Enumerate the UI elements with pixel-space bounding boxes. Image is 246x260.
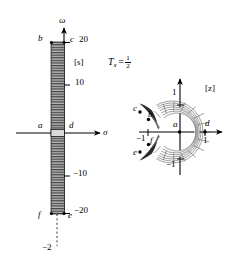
z-tick-left-label: −1	[136, 134, 146, 143]
s-tick-neg20-label: −20	[74, 206, 88, 215]
omega-axis-label: ω	[59, 16, 65, 25]
z-point-f-label: f	[150, 136, 153, 145]
point-e-label: e	[68, 211, 72, 220]
z-point-b-label: b	[148, 110, 153, 119]
point-ad-marker	[51, 130, 65, 137]
point-f-label: f	[38, 210, 41, 219]
s-plane-label: [s]	[74, 58, 84, 67]
z-point-e-label: e	[133, 148, 137, 157]
point-f-dot	[50, 212, 53, 215]
z-point-d-label: d	[205, 119, 210, 128]
point-d-label: d	[69, 121, 74, 130]
s-tick-10-label: 10	[75, 78, 84, 87]
sigma-tick-neg2-label: −2	[42, 243, 52, 252]
z-tick-right-label: 1	[203, 136, 208, 145]
z-tick-top-label: 1	[172, 88, 177, 97]
z-point-a-dot	[178, 130, 181, 133]
point-b-dot	[50, 41, 53, 44]
point-a-label: a	[38, 121, 43, 130]
sigma-axis-label: σ	[103, 128, 107, 137]
z-point-c-label: c	[133, 104, 137, 113]
formula-subscript: x	[114, 61, 117, 69]
z-plane-label: [z]	[205, 84, 215, 93]
z-point-e-dot	[138, 150, 141, 153]
z-point-c-dot	[138, 110, 141, 113]
point-c-label: c	[70, 35, 74, 44]
transfer-formula: Tx=12	[108, 55, 131, 71]
z-tick-bottom-label: −1	[166, 160, 176, 169]
point-b-label: b	[38, 34, 43, 43]
conformal-mapping-figure: ω b c 20 [s] 10 a d σ −10 f e −20 −2 Tx=…	[0, 0, 246, 260]
formula-fraction: 12	[125, 55, 131, 71]
s-tick-20-label: 20	[79, 35, 88, 44]
formula-equals: =	[118, 56, 124, 67]
formula-denominator: 2	[125, 63, 131, 70]
figure-canvas	[0, 0, 246, 260]
s-plane-strip	[50, 41, 66, 215]
s-tick-neg10-label: −10	[73, 169, 87, 178]
z-point-d-dot	[203, 130, 206, 133]
z-point-a-label: a	[173, 120, 178, 129]
